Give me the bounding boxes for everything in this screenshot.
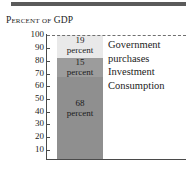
y-tick-label-100: 100 — [0, 30, 44, 39]
top-divider-rule — [11, 2, 186, 6]
y-tick-mark — [46, 86, 50, 87]
bar-segment-unit-19: percent — [57, 45, 103, 55]
bar-segment-value-68: 68 — [57, 98, 103, 108]
y-tick-label-50: 50 — [0, 94, 44, 103]
figure-container: Percent of GDP 100 90 80 70 60 50 40 30 … — [0, 0, 192, 174]
y-tick-mark — [46, 150, 50, 151]
stacked-bar[interactable]: 19 percent 15 percent 68 percent — [57, 35, 103, 159]
bar-segment-unit-15: percent — [57, 67, 103, 77]
y-tick-label-60: 60 — [0, 81, 44, 90]
bar-segment-value-19: 19 — [57, 35, 103, 45]
y-tick-mark — [46, 112, 50, 113]
y-tick-label-30: 30 — [0, 119, 44, 128]
y-tick-label-80: 80 — [0, 56, 44, 65]
bar-segment-consumption[interactable]: 68 percent — [57, 77, 103, 159]
reference-line-100 — [47, 35, 186, 36]
legend-label-purchases: purchases — [108, 52, 192, 66]
y-tick-label-10: 10 — [0, 145, 44, 154]
legend-label-investment: Investment — [108, 65, 192, 79]
x-axis-baseline — [46, 159, 186, 160]
bar-segment-government-purchases[interactable]: 19 percent — [57, 35, 103, 58]
legend-label-government: Government — [108, 38, 192, 52]
chart-title: Percent of GDP — [6, 15, 73, 25]
y-tick-mark — [46, 48, 50, 49]
y-tick-label-90: 90 — [0, 43, 44, 52]
bar-segment-value-15: 15 — [57, 57, 103, 67]
y-tick-label-40: 40 — [0, 107, 44, 116]
y-axis-line — [46, 34, 47, 160]
y-tick-mark — [46, 124, 50, 125]
y-tick-mark — [46, 74, 50, 75]
legend: Government purchases Investment Consumpt… — [108, 38, 192, 92]
y-tick-label-20: 20 — [0, 132, 44, 141]
legend-label-consumption: Consumption — [108, 79, 192, 93]
bar-segment-unit-68: percent — [57, 108, 103, 118]
y-tick-mark — [46, 61, 50, 62]
y-tick-label-70: 70 — [0, 69, 44, 78]
y-tick-mark — [46, 137, 50, 138]
y-tick-mark — [46, 99, 50, 100]
bar-segment-investment[interactable]: 15 percent — [57, 58, 103, 77]
